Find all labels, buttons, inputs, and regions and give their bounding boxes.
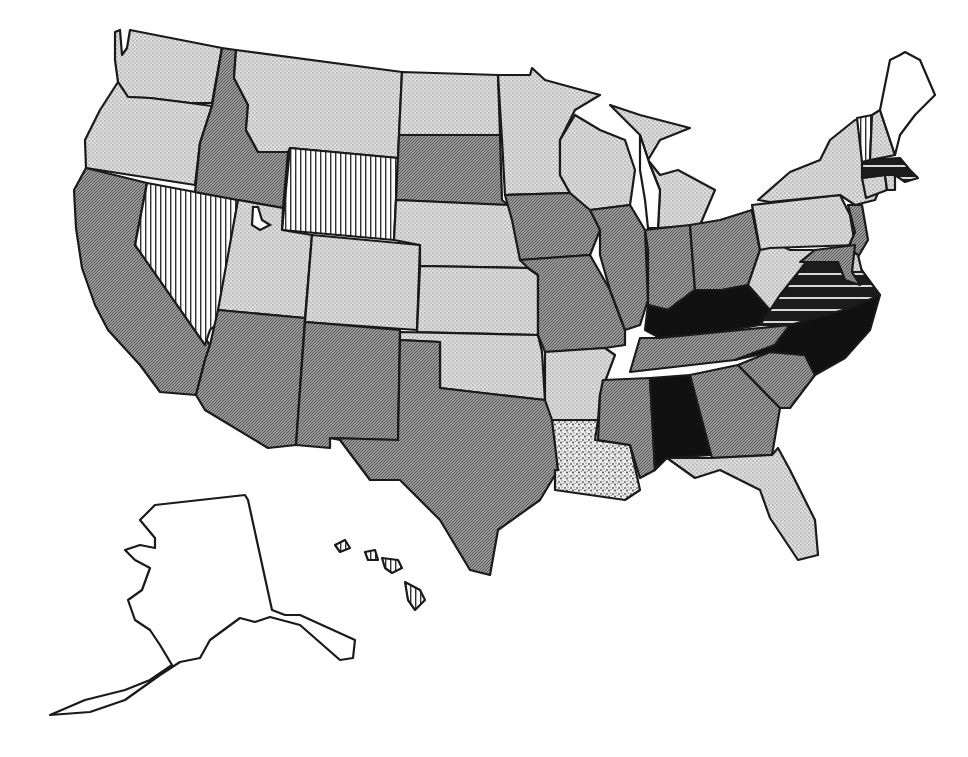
state-mt <box>234 50 402 158</box>
state-nd <box>399 72 500 135</box>
map-canvas <box>0 0 968 757</box>
state-ri <box>885 175 895 190</box>
state-az <box>196 310 305 448</box>
state-ks <box>417 266 538 335</box>
state-sd <box>396 135 508 205</box>
state-hi <box>335 540 425 610</box>
state-pa <box>752 195 855 250</box>
state-co <box>305 235 420 330</box>
us-choropleth-map <box>0 0 968 757</box>
state-nm <box>296 322 400 448</box>
state-wy <box>282 148 398 240</box>
state-ak <box>50 495 355 715</box>
states-layer <box>50 30 935 715</box>
state-fl <box>667 448 818 560</box>
state-wa <box>115 30 222 103</box>
